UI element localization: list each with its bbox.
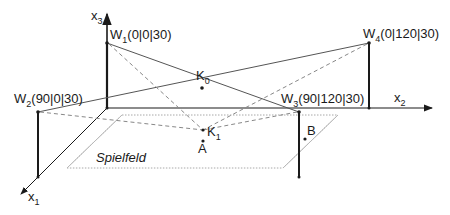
point-origin	[106, 107, 109, 110]
label-b: B	[307, 123, 316, 138]
x2-axis-label: x2	[394, 90, 406, 108]
label-w1: W1(0|0|30)	[110, 27, 172, 45]
dash-w4-k1	[203, 44, 367, 130]
x1-axis-label: x1	[28, 189, 40, 207]
label-k0: K0	[196, 68, 210, 86]
point-w2-base	[37, 176, 40, 179]
dash-w3-k1	[203, 112, 297, 130]
point-w4-base	[368, 107, 371, 110]
spielfeld-diagram: x3 x2 x1 W1(0|0|30) W4(0|120|30) W2(90|0…	[0, 0, 450, 215]
label-w2: W2(90|0|30)	[14, 91, 83, 109]
point-w2	[36, 110, 40, 114]
point-w4	[367, 41, 371, 45]
x1-axis	[21, 108, 107, 194]
point-k0	[200, 86, 204, 90]
x3-axis-label: x3	[91, 8, 103, 26]
point-k1	[201, 128, 204, 131]
field-label: Spielfeld	[96, 150, 147, 165]
dash-w1-k1	[109, 44, 203, 130]
point-w3	[297, 110, 301, 114]
label-w4: W4(0|120|30)	[363, 26, 439, 44]
label-w3: W3(90|120|30)	[281, 91, 364, 109]
point-w1	[105, 41, 109, 45]
dash-w2-k1	[40, 112, 203, 130]
point-w3-base	[298, 176, 301, 179]
label-a: A	[198, 141, 207, 156]
